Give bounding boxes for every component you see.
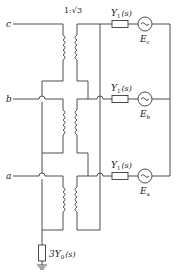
ground-admittance-label: 3Y0(s) xyxy=(49,249,76,260)
ground-icon xyxy=(37,265,47,269)
source-a-label: Ea xyxy=(139,186,151,197)
transformer-c xyxy=(13,24,100,99)
source-c-label: Ec xyxy=(139,34,150,45)
admittance-b-box xyxy=(112,96,128,103)
circuit-diagram: 1:√3 c b a xyxy=(0,0,178,272)
ground-admittance-box xyxy=(39,245,46,261)
turns-ratio-label: 1:√3 xyxy=(64,6,82,15)
admittance-c-label: Y1(s) xyxy=(111,8,132,19)
terminal-a-label: a xyxy=(6,171,11,181)
terminal-c-label: c xyxy=(6,19,11,29)
transformer-a xyxy=(13,24,112,245)
source-b-label: Eb xyxy=(139,109,151,120)
admittance-c-box xyxy=(112,21,128,28)
ground-branch: 3Y0(s) xyxy=(37,245,76,269)
admittance-b-label: Y1(s) xyxy=(111,83,132,94)
admittance-a-label: Y1(s) xyxy=(111,160,132,171)
transformer-b xyxy=(13,96,112,176)
terminal-b-label: b xyxy=(6,94,12,104)
branch-b: Y1(s) Eb xyxy=(111,83,170,120)
admittance-a-box xyxy=(112,173,128,180)
branch-a: Y1(s) Ea xyxy=(111,160,152,197)
